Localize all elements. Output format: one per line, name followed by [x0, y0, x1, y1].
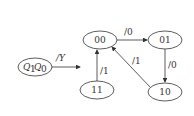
transition-01-10-label: /0 [168, 60, 177, 70]
state-11-label: 11 [91, 85, 102, 95]
legend-node: Q 1 Q 0 [18, 58, 52, 76]
state-10-label: 10 [159, 87, 171, 97]
state-00: 00 [83, 31, 117, 49]
state-01-label: 01 [159, 35, 170, 45]
transition-10-00 [112, 47, 150, 87]
state-11: 11 [80, 81, 114, 99]
transition-10-00-label: /1 [132, 56, 141, 66]
state-10: 10 [148, 83, 182, 101]
state-01: 01 [148, 31, 182, 49]
state-00-label: 00 [94, 35, 106, 45]
legend-arrow-label: /Y [55, 53, 66, 63]
state-diagram: Q 1 Q 0 /Y 00 01 10 11 /0 /0 /1 /1 [0, 0, 194, 116]
legend-sub-0: 0 [41, 64, 47, 74]
transition-11-00-label: /1 [100, 66, 109, 76]
transition-00-01-label: /0 [124, 27, 133, 37]
